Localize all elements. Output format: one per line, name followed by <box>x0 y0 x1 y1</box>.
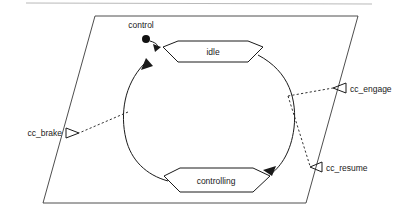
arrowhead-controlling-to-idle <box>141 58 153 70</box>
transition-idle-to-controlling <box>258 55 295 174</box>
port-label-cc-resume: cc_resume <box>326 163 368 173</box>
connector-cc-resume <box>288 96 310 166</box>
initial-state-dot <box>142 35 150 43</box>
state-idle-label: idle <box>206 47 220 57</box>
port-arrow-cc-engage[interactable] <box>333 83 346 93</box>
diagram-canvas: idle controlling control cc_brake cc_eng… <box>0 0 408 219</box>
port-label-cc-engage: cc_engage <box>350 84 392 94</box>
state-controlling-label: controlling <box>197 176 236 186</box>
scan-artifact-line <box>26 3 372 4</box>
connector-cc-brake <box>79 112 128 133</box>
region-title-label: control <box>128 20 154 30</box>
port-label-cc-brake: cc_brake <box>28 128 63 138</box>
statechart-diagram: idle controlling control cc_brake cc_eng… <box>0 0 408 219</box>
transition-controlling-to-idle <box>123 64 168 181</box>
connector-cc-engage <box>288 88 333 96</box>
port-arrow-cc-brake[interactable] <box>66 128 79 138</box>
